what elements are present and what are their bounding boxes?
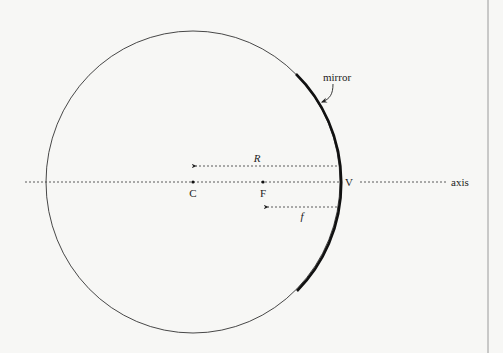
axis-label: axis: [451, 176, 469, 188]
center-label: C: [189, 187, 196, 199]
mirror-diagram: mirror C F V axis R f: [0, 0, 503, 353]
radius-label: R: [253, 152, 261, 164]
mirror-arc: [296, 74, 341, 291]
focal-point-dot: [261, 180, 264, 183]
focal-point-label: F: [260, 187, 266, 199]
mirror-label: mirror: [323, 71, 351, 83]
vertex-label: V: [345, 176, 353, 188]
center-point-dot: [191, 180, 194, 183]
mirror-pointer-arrow: [322, 84, 333, 102]
focal-length-label: f: [300, 210, 305, 222]
